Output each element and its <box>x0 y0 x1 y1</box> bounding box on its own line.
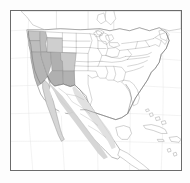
region-wyoming <box>47 38 62 53</box>
jamaica-island <box>157 139 164 141</box>
figure-container <box>0 0 190 183</box>
region-idaho <box>40 31 47 52</box>
region-oregon <box>29 41 41 52</box>
north-america-range-map <box>11 11 181 170</box>
region-new-mexico <box>63 71 75 87</box>
caption-area <box>0 173 190 183</box>
region-colorado <box>60 52 76 70</box>
map-frame <box>10 10 182 171</box>
